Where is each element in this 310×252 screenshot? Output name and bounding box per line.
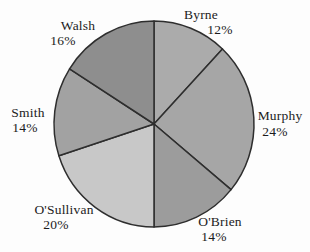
slice-pct-murphy: 24% <box>262 125 287 139</box>
pie-chart: Byrne 12% Murphy 24% O'Brien 14% O'Sulli… <box>0 0 310 252</box>
pie-slices <box>54 21 254 227</box>
slice-label-obrien: O'Brien <box>198 215 242 229</box>
slice-label-byrne: Byrne <box>184 8 218 22</box>
slice-label-murphy: Murphy <box>258 109 303 123</box>
slice-pct-smith: 14% <box>12 121 37 135</box>
slice-pct-byrne: 12% <box>207 23 232 37</box>
slice-pct-obrien: 14% <box>201 230 226 244</box>
slice-label-walsh: Walsh <box>61 19 95 33</box>
slice-label-osullivan: O'Sullivan <box>34 203 93 217</box>
slice-pct-osullivan: 20% <box>43 218 68 232</box>
slice-label-smith: Smith <box>11 106 44 120</box>
slice-pct-walsh: 16% <box>50 34 75 48</box>
